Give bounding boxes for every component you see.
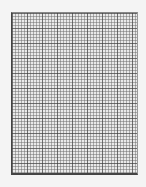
graph-paper-grid [11, 12, 138, 175]
